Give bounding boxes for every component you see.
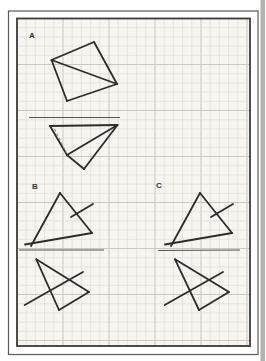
figure-canvas: A B C — [0, 0, 265, 361]
section-label-c: C — [156, 181, 162, 190]
section-label-a: A — [29, 31, 35, 40]
section-label-b: B — [32, 182, 38, 191]
scan-edge-shadow — [261, 0, 266, 361]
mirror-line-c — [158, 250, 240, 251]
graph-paper — [17, 19, 250, 347]
shape-segment — [50, 125, 118, 126]
scanned-page: A B C — [0, 0, 265, 361]
